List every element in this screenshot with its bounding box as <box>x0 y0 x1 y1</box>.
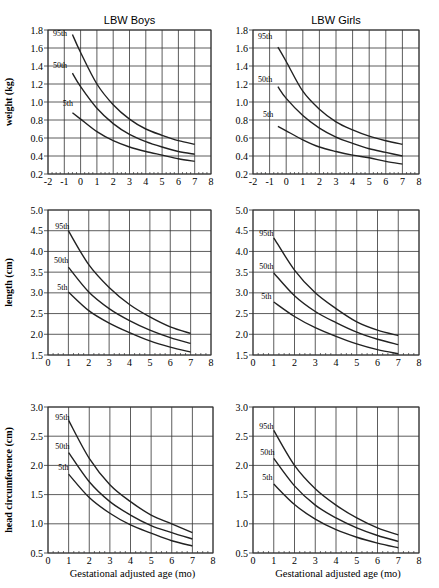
y-tick-label: 5.0 <box>236 205 249 216</box>
y-tick-label: 4.0 <box>236 246 249 257</box>
y-tick-label: 2.5 <box>236 308 249 319</box>
x-tick-label: 6 <box>168 357 173 368</box>
percentile-curve-50th <box>72 73 194 154</box>
x-tick-label: 3 <box>107 357 112 368</box>
x-tick-label: 8 <box>417 176 422 187</box>
y-tick-label: 1.0 <box>31 518 44 529</box>
y-tick-label: 2.0 <box>31 329 44 340</box>
percentile-label: 50th <box>53 61 67 70</box>
x-tick-label: 1 <box>300 176 305 187</box>
y-tick-label: 1.5 <box>236 350 249 361</box>
x-tick-label: 6 <box>375 555 380 566</box>
y-axis-label: weight (kg) <box>3 78 15 126</box>
x-tick-label: 1 <box>66 357 71 368</box>
percentile-label: 95th <box>259 229 273 238</box>
y-tick-label: 2.5 <box>31 431 44 442</box>
y-tick-label: 1.5 <box>31 350 44 361</box>
x-tick-label: -2 <box>249 176 257 187</box>
y-tick-label: 1.8 <box>236 25 249 36</box>
y-tick-label: 1.2 <box>236 79 249 90</box>
y-tick-label: 3.5 <box>31 267 44 278</box>
y-tick-label: 1.0 <box>31 97 44 108</box>
x-tick-label: 2 <box>111 176 116 187</box>
x-tick-label: 5 <box>354 357 359 368</box>
x-tick-label: -1 <box>265 176 273 187</box>
percentile-label: 50th <box>54 256 68 265</box>
y-tick-label: 0.2 <box>31 169 44 180</box>
x-tick-label: 3 <box>107 555 112 566</box>
y-tick-label: 1.6 <box>31 43 44 54</box>
percentile-curve-95th <box>278 47 403 144</box>
x-tick-label: 0 <box>284 176 289 187</box>
percentile-label: 5th <box>261 292 271 301</box>
x-tick-label: 3 <box>313 357 318 368</box>
y-axis-label: head circumference (cm) <box>3 427 15 533</box>
y-tick-label: 2.5 <box>31 308 44 319</box>
y-tick-label: 1.8 <box>31 25 44 36</box>
percentile-curve-50th <box>278 87 403 156</box>
y-tick-label: 5.0 <box>31 205 44 216</box>
y-axis-label: length (cm) <box>3 258 15 307</box>
percentile-label: 5th <box>57 283 67 292</box>
x-tick-label: 5 <box>354 555 359 566</box>
chart-weight-girls: -2-10123456780.20.40.60.81.01.21.41.61.8… <box>236 14 422 187</box>
y-tick-label: 0.2 <box>236 169 249 180</box>
x-tick-label: 0 <box>251 555 256 566</box>
x-tick-label: -2 <box>44 176 52 187</box>
y-tick-label: 1.0 <box>236 97 249 108</box>
x-tick-label: 2 <box>86 357 91 368</box>
x-tick-label: 4 <box>350 176 355 187</box>
y-tick-label: 1.4 <box>31 61 44 72</box>
percentile-label: 50th <box>55 442 69 451</box>
x-tick-label: 4 <box>334 555 339 566</box>
y-tick-label: 0.6 <box>31 133 44 144</box>
y-tick-label: 1.5 <box>31 489 44 500</box>
chart-weight-boys: -2-10123456780.20.40.60.81.01.21.41.61.8… <box>3 14 214 187</box>
x-tick-label: 4 <box>127 357 132 368</box>
x-tick-label: 4 <box>128 555 133 566</box>
y-tick-label: 2.5 <box>236 431 249 442</box>
y-tick-label: 1.0 <box>236 518 249 529</box>
x-tick-label: 6 <box>176 176 181 187</box>
percentile-label: 95th <box>55 413 69 422</box>
x-tick-label: -1 <box>60 176 68 187</box>
growth-velocity-figure: -2-10123456780.20.40.60.81.01.21.41.61.8… <box>0 0 439 588</box>
y-tick-label: 3.0 <box>31 402 44 413</box>
y-tick-label: 3.0 <box>236 402 249 413</box>
y-tick-label: 1.2 <box>31 79 44 90</box>
x-tick-label: 0 <box>78 176 83 187</box>
percentile-curve-5th <box>278 126 403 164</box>
chart-title: LBW Girls <box>311 14 361 26</box>
x-tick-label: 7 <box>192 176 197 187</box>
y-tick-label: 0.8 <box>236 115 249 126</box>
y-tick-label: 3.0 <box>31 287 44 298</box>
chart-head-circumference-boys: 0123456780.51.01.52.02.53.0head circumfe… <box>3 402 216 581</box>
x-tick-label: 5 <box>147 357 152 368</box>
x-tick-label: 0 <box>251 357 256 368</box>
percentile-label: 5th <box>58 463 68 472</box>
y-tick-label: 2.0 <box>236 329 249 340</box>
x-tick-label: 6 <box>383 176 388 187</box>
y-tick-label: 1.4 <box>236 61 249 72</box>
y-tick-label: 4.0 <box>31 246 44 257</box>
y-tick-label: 1.5 <box>236 489 249 500</box>
y-tick-label: 3.5 <box>236 267 249 278</box>
y-tick-label: 0.6 <box>236 133 249 144</box>
x-tick-label: 7 <box>396 357 401 368</box>
x-tick-label: 7 <box>190 555 195 566</box>
percentile-label: 5th <box>263 110 273 119</box>
x-tick-label: 3 <box>334 176 339 187</box>
y-tick-label: 0.8 <box>31 115 44 126</box>
x-tick-label: 0 <box>46 555 51 566</box>
x-tick-label: 2 <box>87 555 92 566</box>
x-tick-label: 6 <box>169 555 174 566</box>
x-tick-label: 2 <box>292 357 297 368</box>
x-tick-label: 8 <box>417 357 422 368</box>
y-tick-label: 2.0 <box>31 460 44 471</box>
percentile-label: 95th <box>53 29 67 38</box>
percentile-label: 95th <box>258 32 272 41</box>
x-tick-label: 4 <box>334 357 339 368</box>
x-tick-label: 8 <box>209 357 214 368</box>
x-tick-label: 7 <box>396 555 401 566</box>
chart-head-circumference-girls: 0123456780.51.01.52.02.53.0Gestational a… <box>236 402 422 581</box>
